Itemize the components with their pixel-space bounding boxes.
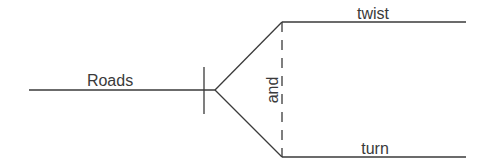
- sentence-diagram: Roads twist turn and: [0, 0, 490, 166]
- predicate-word-twist: twist: [357, 5, 390, 22]
- subject-word: Roads: [87, 72, 133, 89]
- diagram-canvas: Roads twist turn and: [0, 0, 490, 166]
- conjunction-word: and: [264, 77, 281, 104]
- predicate-word-turn: turn: [361, 140, 389, 157]
